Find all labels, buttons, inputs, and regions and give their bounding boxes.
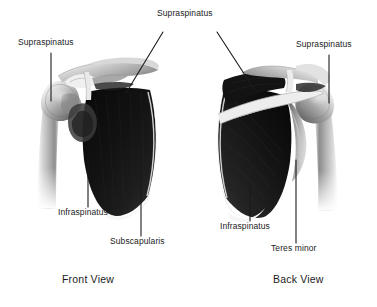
label-supraspinatus-center: Supraspinatus — [157, 8, 213, 18]
label-infraspinatus-front: Infraspinatus — [58, 207, 108, 217]
caption-front-view: Front View — [62, 273, 114, 285]
label-subscapularis-front: Subscapularis — [110, 236, 165, 246]
label-teres-minor-back: Teres minor — [271, 243, 317, 253]
label-supraspinatus-front-left: Supraspinatus — [18, 37, 74, 47]
back-view-illustration — [217, 64, 338, 222]
label-supraspinatus-back-right: Supraspinatus — [296, 39, 352, 49]
label-infraspinatus-back: Infraspinatus — [220, 221, 270, 231]
caption-back-view: Back View — [273, 273, 324, 285]
